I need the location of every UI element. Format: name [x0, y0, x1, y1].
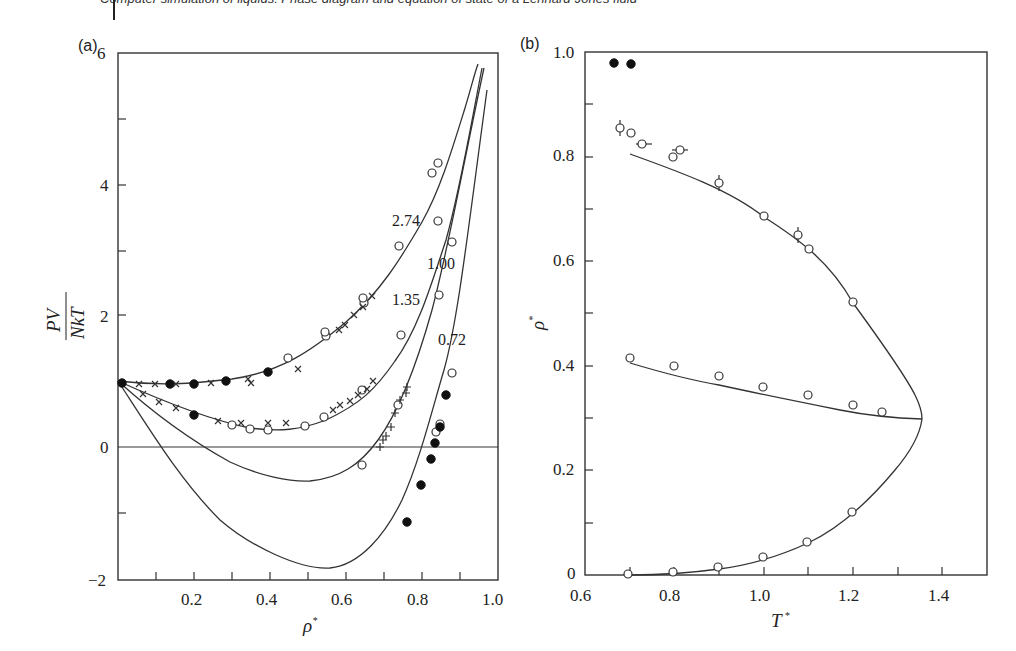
panel-b: (b) 1.0 0.8 0.6 0.4 [520, 35, 987, 631]
panel-b-xtick: 0.6 [570, 586, 591, 605]
panel-b-xtick: 1.0 [749, 586, 770, 605]
isotherm-label: 2.74 [392, 212, 420, 229]
panel-b-errorbar-points [616, 120, 802, 243]
panel-b-ytick: 0.8 [553, 146, 574, 165]
panel-a-xtick: 1.0 [482, 590, 503, 609]
panel-a-xtick: 0.4 [256, 590, 278, 609]
panel-b-xtick: 1.2 [838, 586, 859, 605]
panel-b-xlabel: T* [771, 610, 790, 631]
panel-b-frame [585, 52, 987, 575]
panel-b-open-circles [624, 129, 886, 578]
panel-a-ytick: −2 [88, 571, 106, 590]
panel-a-x-crosses [136, 293, 376, 426]
svg-text:NkT: NkT [67, 306, 88, 340]
isotherm-1.00 [118, 68, 484, 481]
panel-a: (a) 6 4 2 0 −2 [43, 37, 503, 636]
panel-b-filled-circles [610, 59, 635, 68]
panel-a-xtick: 0.8 [407, 590, 428, 609]
isotherm-0.72 [118, 90, 487, 568]
panel-b-ytick: 1.0 [553, 43, 574, 62]
panel-a-label: (a) [78, 37, 98, 54]
panel-a-ylabel: PV NkT [43, 292, 88, 340]
panel-a-x-ticks [156, 572, 460, 580]
panel-a-xtick: 0.2 [181, 590, 202, 609]
panel-a-y-ticks [118, 119, 126, 513]
isotherm-label: 1.35 [392, 291, 420, 308]
panel-a-ytick: 2 [100, 307, 109, 326]
panel-a-frame [118, 53, 498, 580]
panel-b-ytick: 0.4 [553, 356, 575, 375]
liquid-branch [630, 154, 922, 419]
panel-b-ytick: 0 [567, 564, 576, 583]
isotherm-label: 0.72 [438, 331, 466, 348]
panel-a-open-circles [228, 159, 456, 469]
panel-a-plus-markers [376, 383, 411, 451]
panel-b-ytick: 0.6 [553, 251, 574, 270]
panel-b-xtick: 0.8 [659, 586, 680, 605]
vapor-branch [630, 419, 922, 575]
panel-a-xtick: 0.6 [331, 590, 352, 609]
isotherm-1.35 [118, 68, 482, 430]
panel-a-ytick: 4 [100, 176, 109, 195]
panel-b-y-ticks [585, 104, 593, 523]
panel-b-ylabel: ρ* [527, 316, 548, 331]
panel-b-ytick: 0.2 [553, 460, 574, 479]
isotherm-label: 1.00 [427, 255, 455, 272]
svg-text:PV: PV [43, 306, 64, 333]
panel-a-curves [118, 64, 487, 568]
panel-a-ytick: 6 [97, 44, 106, 63]
panel-b-label: (b) [520, 35, 540, 52]
panel-a-ytick: 0 [100, 438, 109, 457]
errorbar-point [636, 140, 652, 148]
figure: (a) 6 4 2 0 −2 [0, 0, 1016, 651]
errorbar-point [794, 227, 802, 243]
errorbar-point [616, 120, 624, 136]
panel-b-xtick: 1.4 [928, 586, 950, 605]
panel-a-xlabel: ρ* [302, 615, 317, 636]
svg-text:ρ*: ρ* [527, 316, 548, 331]
